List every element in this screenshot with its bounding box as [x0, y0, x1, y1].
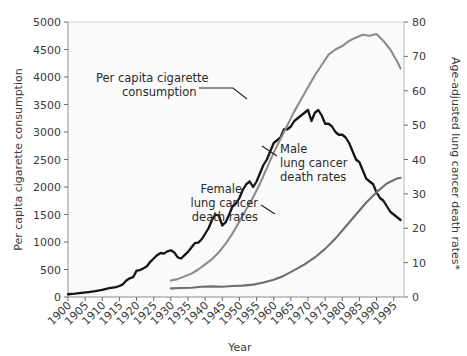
y-axis-right-tick-label: 20	[412, 222, 426, 235]
y-axis-left-tick-label: 4000	[33, 71, 61, 84]
y-axis-left-tick-label: 3500	[33, 99, 61, 112]
plot-area-background	[68, 22, 404, 297]
y-axis-left-tick-label: 2500	[33, 154, 61, 167]
y-axis-left-tick-label: 5000	[33, 16, 61, 29]
y-axis-right-tick-label: 10	[412, 257, 426, 270]
y-axis-right-tick-label: 70	[412, 50, 426, 63]
lung-cancer-cigarette-chart: 1900190519101915192019251930193519401945…	[0, 0, 467, 356]
y-axis-left-tick-label: 500	[40, 264, 61, 277]
y-axis-left-tick-label: 4500	[33, 44, 61, 57]
x-axis-title: Year	[227, 341, 252, 354]
y-axis-left-tick-label: 3000	[33, 126, 61, 139]
y-axis-left-tick-label: 2000	[33, 181, 61, 194]
y-axis-right-tick-label: 50	[412, 119, 426, 132]
y-axis-right-tick-label: 40	[412, 154, 426, 167]
y-axis-right-title: Age-adjusted lung cancer death rates*	[449, 57, 462, 271]
y-axis-left-tick-label: 1500	[33, 209, 61, 222]
y-axis-right-tick-label: 0	[412, 291, 419, 304]
y-axis-right-tick-label: 80	[412, 16, 426, 29]
y-axis-left-tick-label: 1000	[33, 236, 61, 249]
y-axis-left-title: Per capita cigarette consumption	[12, 68, 25, 250]
y-axis-right-tick-label: 60	[412, 85, 426, 98]
chart-screenshot: 1900190519101915192019251930193519401945…	[0, 0, 467, 356]
y-axis-right-tick-label: 30	[412, 188, 426, 201]
y-axis-left-tick-label: 0	[54, 291, 61, 304]
